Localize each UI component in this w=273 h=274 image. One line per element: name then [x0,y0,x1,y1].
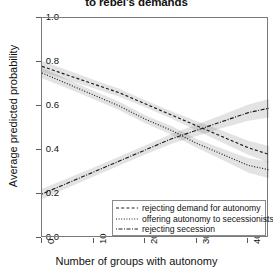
legend-key-dashed-icon [116,204,138,212]
legend: rejecting demand for autonomy offering a… [112,200,266,236]
x-tick-mark [93,238,94,243]
figure: to rebel's demands Average predicted pro… [0,0,273,274]
chart-title: to rebel's demands [0,0,273,9]
legend-label: offering autonomy to secessionists [142,214,273,224]
x-tick-mark [196,238,197,243]
legend-item: rejecting demand for autonomy [116,203,262,214]
legend-label: rejecting secession [142,224,215,234]
legend-key-dotdash-icon [116,225,138,233]
y-axis-label: Average predicted probability [7,6,19,226]
legend-key-dotted-icon [116,215,138,223]
legend-item: offering autonomy to secessionists [116,214,262,225]
x-tick-mark [41,238,42,243]
x-tick-mark [144,238,145,243]
x-tick-mark [247,238,248,243]
legend-item: rejecting secession [116,224,262,235]
x-axis-label: Number of groups with autonomy [0,255,273,267]
x-tick-label: 0 [45,239,56,244]
legend-label: rejecting demand for autonomy [142,203,260,213]
confidence-band [42,99,269,199]
